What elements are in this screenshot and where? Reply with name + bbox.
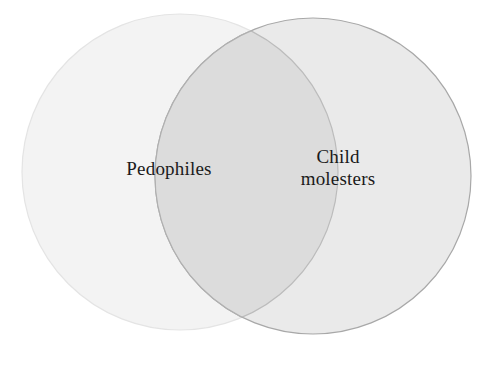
venn-label-pedophiles: Pedophiles (93, 158, 245, 180)
venn-label-child-molesters: Child molesters (272, 146, 404, 190)
venn-diagram-graphic (0, 0, 497, 369)
venn-diagram-canvas: Pedophiles Child molesters (0, 0, 497, 369)
